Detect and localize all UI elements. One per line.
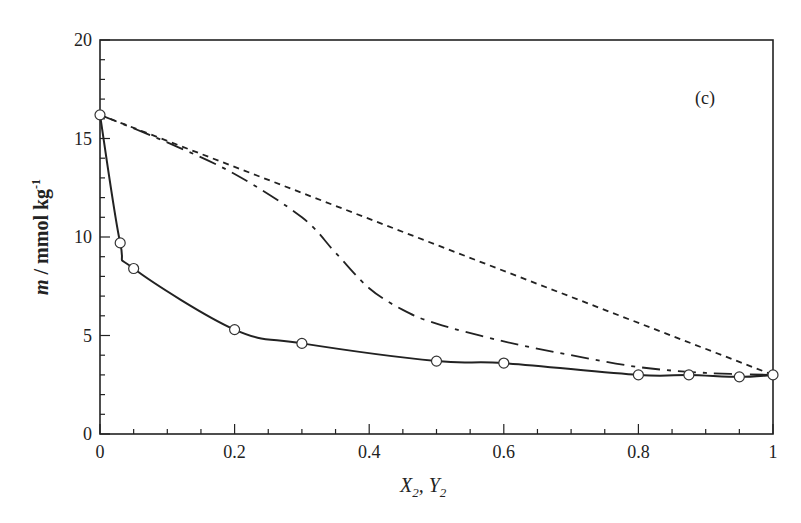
data-point-marker <box>499 358 509 368</box>
x-tick-label: 0 <box>96 442 105 462</box>
data-point-marker <box>684 370 694 380</box>
x-axis-title: X2, Y2 <box>399 474 447 500</box>
y-tick-label: 20 <box>74 30 92 50</box>
x-tick-label: 0.6 <box>493 442 516 462</box>
x-tick-label: 1 <box>769 442 778 462</box>
x-tick-label: 0.2 <box>223 442 246 462</box>
chart: 00.20.40.60.8105101520 (c) X2, Y2 m / mm… <box>0 0 801 523</box>
y-tick-label: 15 <box>74 129 92 149</box>
series-line <box>100 115 773 375</box>
y-tick-label: 5 <box>83 326 92 346</box>
data-point-marker <box>432 356 442 366</box>
data-series <box>95 110 778 382</box>
y-tick-label: 10 <box>74 227 92 247</box>
data-point-marker <box>297 338 307 348</box>
y-axis-title: m / mmol kg-1 <box>29 179 53 295</box>
data-point-marker <box>115 238 125 248</box>
data-point-marker <box>95 110 105 120</box>
data-point-marker <box>633 370 643 380</box>
svg-text:m / mmol kg-1: m / mmol kg-1 <box>29 179 53 295</box>
axis-tick-labels: 00.20.40.60.8105101520 <box>74 30 778 462</box>
panel-label: (c) <box>695 88 715 109</box>
y-tick-label: 0 <box>83 424 92 444</box>
data-point-marker <box>734 372 744 382</box>
data-point-marker <box>768 370 778 380</box>
data-point-marker <box>230 325 240 335</box>
x-tick-label: 0.4 <box>358 442 381 462</box>
series-line <box>100 115 773 375</box>
data-point-marker <box>129 264 139 274</box>
series-line <box>100 115 773 377</box>
x-tick-label: 0.8 <box>627 442 650 462</box>
